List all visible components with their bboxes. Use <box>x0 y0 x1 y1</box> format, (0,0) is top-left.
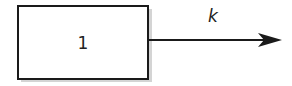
outflow-arrow <box>0 0 292 86</box>
rate-constant-label: k <box>208 6 218 26</box>
